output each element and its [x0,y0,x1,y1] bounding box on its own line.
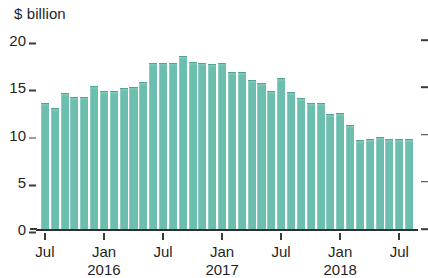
bar [80,97,88,229]
x-axis-year-label: 2018 [323,261,356,278]
x-axis-tick-label: Jul [390,243,409,260]
x-axis-tick [162,233,164,240]
bar [356,140,364,229]
y-tick-dash-right [421,86,428,88]
y-axis-tick-label: 0 [0,221,36,238]
bar [129,87,137,229]
bar [385,139,393,229]
x-axis-tick [398,233,400,240]
bar [228,72,236,229]
bar [366,139,374,229]
x-axis-tick-label: Jan [328,243,352,260]
y-tick-dash-right [421,39,428,41]
x-axis-tick-label: Jul [35,243,54,260]
y-tick-value: 10 [9,126,26,143]
bar [159,63,167,229]
x-axis-tick [221,233,223,240]
y-tick-dash-right [421,181,428,183]
x-axis-tick [339,233,341,240]
y-tick-dash [29,232,36,234]
bar [395,139,403,229]
x-axis-tick-label: Jul [153,243,172,260]
bar [100,91,108,229]
bar [70,97,78,229]
bar [41,103,49,229]
bar [90,86,98,229]
x-axis-year-label: 2016 [87,261,120,278]
y-tick-value: 0 [18,221,26,238]
bar-chart: $ billion 20151050 JulJan2016JulJan2017J… [0,0,428,278]
y-tick-value: 5 [18,173,26,190]
bar [120,88,128,229]
bar [110,91,118,229]
x-axis-tick [280,233,282,240]
x-axis-tick-label: Jul [272,243,291,260]
y-tick-dash [29,43,36,45]
x-axis-tick [103,233,105,240]
bar [238,72,246,229]
bar [297,98,305,229]
bar [376,137,384,229]
bar [257,83,265,229]
bar [149,63,157,229]
bar [179,56,187,229]
y-tick-value: 15 [9,79,26,96]
bar [169,63,177,229]
bar [317,103,325,229]
bar [139,82,147,229]
bar [208,64,216,229]
plot-area [40,40,414,229]
y-axis-tick-label: 5 [0,173,36,190]
bar [326,114,334,229]
bar [307,103,315,229]
bar [336,113,344,229]
y-tick-dash-right [421,134,428,136]
x-axis-tick-label: Jan [210,243,234,260]
x-axis-tick [44,233,46,240]
y-axis-caption: $ billion [14,5,66,22]
bar [198,63,206,229]
y-tick-dash [29,137,36,139]
bar [267,91,275,229]
bar [346,125,354,229]
bar-series [40,40,414,229]
y-axis-tick-label: 15 [0,79,36,96]
x-axis-year-label: 2017 [205,261,238,278]
bar [277,78,285,229]
bar [51,108,59,229]
y-tick-dash [29,184,36,186]
y-tick-dash-right [421,228,428,230]
y-axis-tick-label: 10 [0,126,36,143]
bar [287,92,295,229]
bar [218,63,226,229]
bar [405,139,413,229]
bar [248,80,256,229]
bar [189,62,197,229]
y-axis-tick-label: 20 [0,32,36,49]
x-axis-tick-label: Jan [92,243,116,260]
y-tick-dash [29,90,36,92]
bar [61,93,69,229]
x-axis-line [36,229,418,231]
y-tick-value: 20 [9,32,26,49]
